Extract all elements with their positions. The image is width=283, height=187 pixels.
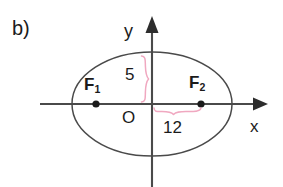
focus-label-f2: F2: [189, 74, 205, 91]
focus-label-f1-subscript: 1: [95, 83, 101, 95]
x-axis-label: x: [250, 118, 259, 135]
focus-label-f1: F1: [84, 76, 100, 93]
semi-minor-measure-label: 5: [125, 66, 134, 83]
focus-point-f1: [92, 100, 99, 107]
y-axis-arrow-icon: [146, 16, 159, 33]
focal-distance-measure-label: 12: [163, 119, 182, 136]
focus-label-f2-subscript: 2: [200, 81, 206, 93]
semi-minor-brace-icon: [142, 56, 149, 102]
focal-distance-brace-icon: [154, 108, 201, 114]
ellipse-figure: b) y x F1 F2 O 5 12: [0, 0, 283, 187]
focus-point-f2: [197, 100, 204, 107]
part-label: b): [12, 18, 30, 38]
origin-label: O: [122, 109, 135, 126]
figure-canvas: [0, 0, 283, 187]
focus-label-f1-base: F: [84, 75, 94, 94]
x-axis-arrow-icon: [253, 98, 268, 111]
y-axis-label: y: [124, 22, 133, 40]
focus-label-f2-base: F: [189, 73, 199, 92]
